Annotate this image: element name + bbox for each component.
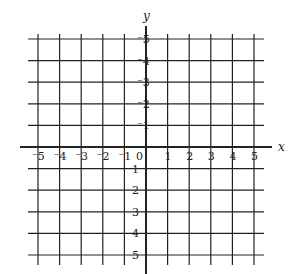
tick-labels: xy⁻5⁻4⁻3⁻2⁻101234554321⁻1⁻2⁻3⁻4⁻5 — [32, 9, 285, 262]
y-tick-label: ⁻2 — [137, 98, 150, 111]
x-tick-label: ⁻2 — [97, 150, 110, 163]
y-tick-label: 4 — [132, 227, 139, 240]
x-tick-label: ⁻3 — [75, 150, 88, 163]
y-axis-label: y — [142, 9, 150, 23]
y-tick-label: ⁻4 — [137, 55, 150, 68]
x-axis-label: x — [278, 140, 285, 154]
y-tick-label: ⁻3 — [137, 76, 150, 89]
x-tick-label: ⁻4 — [54, 150, 67, 163]
x-tick-label: 1 — [165, 150, 172, 163]
coordinate-plane: xy⁻5⁻4⁻3⁻2⁻101234554321⁻1⁻2⁻3⁻4⁻5 — [0, 0, 302, 274]
x-tick-label: ⁻1 — [118, 150, 131, 163]
y-tick-label: 1 — [132, 163, 139, 176]
y-tick-label: ⁻5 — [137, 33, 150, 46]
y-tick-label: 2 — [132, 184, 139, 197]
y-tick-label: ⁻1 — [137, 119, 150, 132]
x-tick-label: 3 — [208, 150, 215, 163]
x-tick-label: 0 — [136, 150, 143, 163]
x-tick-label: 4 — [229, 150, 236, 163]
x-tick-label: 5 — [251, 150, 258, 163]
y-tick-label: 5 — [132, 249, 139, 262]
y-tick-label: 3 — [132, 206, 139, 219]
x-tick-label: ⁻5 — [32, 150, 45, 163]
x-tick-label: 2 — [186, 150, 193, 163]
